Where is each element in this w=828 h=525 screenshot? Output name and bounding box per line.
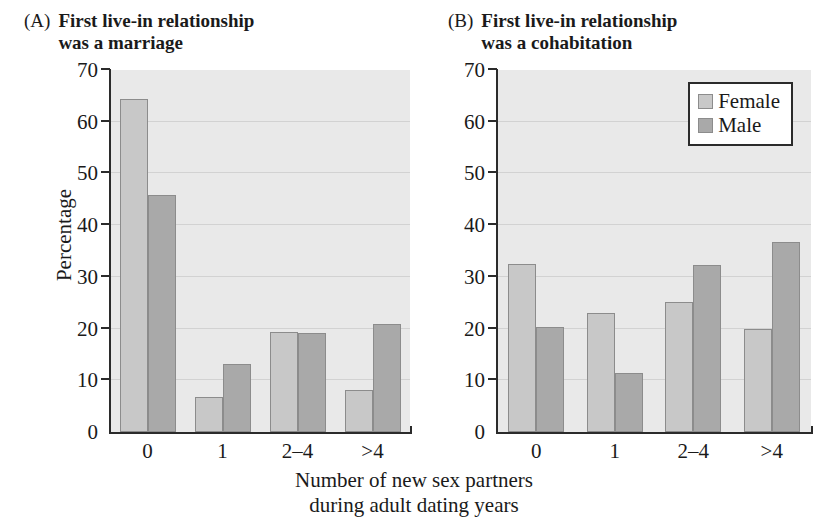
y-tick-mark (101, 171, 110, 173)
y-tick-label: 0 (475, 422, 486, 443)
x-tick-label: >4 (335, 441, 410, 462)
panel-b-x-axis-line (496, 432, 813, 434)
bar-female (665, 302, 693, 432)
panel-a-plot-area: 010203040506070 012–4>4 (110, 70, 410, 432)
panel-a-x-axis-line (109, 432, 412, 434)
legend-item-male: Male (698, 113, 780, 137)
x-tick-label: 2–4 (260, 441, 335, 462)
y-tick-label: 10 (77, 370, 98, 391)
panel-b-heading: (B) First live-in relationship was a coh… (448, 10, 677, 55)
panel-a-tag: (A) (24, 10, 50, 32)
legend-label-male: Male (718, 113, 761, 137)
y-tick-label: 60 (77, 111, 98, 132)
panel-b: (B) First live-in relationship was a coh… (424, 0, 828, 470)
y-tick-mark (101, 378, 110, 380)
bar-female (508, 264, 536, 432)
x-tick-label: >4 (733, 441, 812, 462)
y-tick-label: 40 (464, 215, 485, 236)
x-tick-label: 0 (497, 441, 576, 462)
y-tick-mark (488, 275, 497, 277)
y-tick-mark (101, 327, 110, 329)
bar-group (497, 70, 576, 432)
bar-female (345, 390, 373, 432)
y-tick-label: 70 (77, 60, 98, 81)
bar-female (744, 329, 772, 432)
bar-male (298, 333, 326, 432)
x-tick-label: 1 (185, 441, 260, 462)
y-tick-label: 10 (464, 370, 485, 391)
panel-a-heading: (A) First live-in relationship was a mar… (24, 10, 254, 55)
bar-female (587, 313, 615, 432)
panel-b-tag: (B) (448, 10, 473, 32)
bar-male (615, 373, 643, 432)
y-tick-mark (488, 223, 497, 225)
bar-female (270, 332, 298, 432)
legend-label-female: Female (718, 89, 780, 113)
y-tick-mark (101, 275, 110, 277)
y-tick-label: 20 (464, 318, 485, 339)
y-tick-mark (101, 68, 110, 70)
panel-a: (A) First live-in relationship was a mar… (0, 0, 424, 470)
y-tick-label: 0 (88, 422, 99, 443)
figure-two-panel-bar-chart: (A) First live-in relationship was a mar… (0, 0, 828, 525)
legend-swatch-male-icon (698, 118, 713, 133)
y-tick-mark (101, 223, 110, 225)
y-tick-mark (488, 378, 497, 380)
bar-group (335, 70, 410, 432)
bar-male (536, 327, 564, 432)
y-tick-mark (101, 120, 110, 122)
x-tick-label: 1 (576, 441, 655, 462)
bar-male (693, 265, 721, 432)
legend-swatch-female-icon (698, 94, 713, 109)
y-tick-label: 50 (77, 163, 98, 184)
bar-female (120, 99, 148, 432)
y-tick-label: 70 (464, 60, 485, 81)
bar-male (772, 242, 800, 432)
bar-group (110, 70, 185, 432)
y-tick-mark (488, 171, 497, 173)
y-tick-label: 30 (464, 266, 485, 287)
panel-a-x-axis-endcap (410, 426, 412, 434)
y-tick-label: 20 (77, 318, 98, 339)
bar-male (223, 364, 251, 432)
panel-b-x-axis-endcap (811, 426, 813, 434)
y-tick-mark (488, 327, 497, 329)
panel-a-y-axis-label: Percentage (52, 189, 77, 281)
panel-b-plot-area: 010203040506070 012–4>4 Female Male (497, 70, 811, 432)
bar-female (195, 397, 223, 432)
y-tick-mark (488, 68, 497, 70)
legend-item-female: Female (698, 89, 780, 113)
y-tick-mark (488, 120, 497, 122)
panel-b-x-tick-labels: 012–4>4 (497, 441, 811, 462)
y-tick-label: 60 (464, 111, 485, 132)
bar-group (260, 70, 335, 432)
bar-group (576, 70, 655, 432)
x-axis-caption: Number of new sex partners during adult … (0, 468, 828, 518)
bar-group (185, 70, 260, 432)
panel-a-title: First live-in relationship was a marriag… (58, 10, 254, 55)
y-tick-label: 50 (464, 163, 485, 184)
x-tick-label: 0 (110, 441, 185, 462)
bar-male (373, 324, 401, 432)
bar-male (148, 195, 176, 432)
panel-a-x-tick-labels: 012–4>4 (110, 441, 410, 462)
y-tick-label: 30 (77, 266, 98, 287)
y-tick-label: 40 (77, 215, 98, 236)
panel-b-title: First live-in relationship was a cohabit… (481, 10, 677, 55)
panel-a-bars (110, 70, 410, 432)
legend: Female Male (688, 82, 793, 146)
x-tick-label: 2–4 (654, 441, 733, 462)
